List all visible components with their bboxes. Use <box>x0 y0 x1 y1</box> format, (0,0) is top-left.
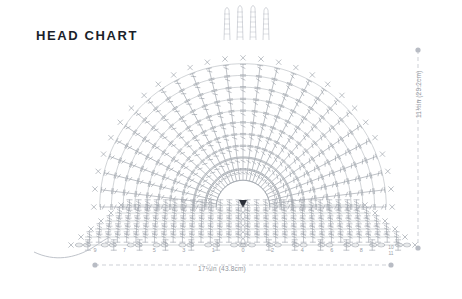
svg-text:3: 3 <box>182 247 185 253</box>
svg-text:8: 8 <box>360 247 363 253</box>
dimension-height-label: 11½in (29.2cm) <box>415 71 422 118</box>
svg-text:6: 6 <box>330 247 333 253</box>
crochet-chart-diagram: 97531024681011 <box>0 0 462 299</box>
svg-text:4: 4 <box>301 247 304 253</box>
svg-text:7: 7 <box>123 247 126 253</box>
svg-text:1: 1 <box>212 247 215 253</box>
center-chain-column <box>241 206 245 245</box>
dimension-width-label: 17¼in (43.8cm) <box>198 265 246 272</box>
svg-text:2: 2 <box>271 247 274 253</box>
yarn-tail <box>34 238 108 258</box>
svg-text:0: 0 <box>241 247 244 253</box>
svg-text:10: 10 <box>388 245 394 250</box>
fringe-strands <box>224 6 269 41</box>
head-chart-page: HEAD CHART <box>0 0 462 299</box>
svg-text:5: 5 <box>153 247 156 253</box>
svg-text:11: 11 <box>389 251 394 256</box>
svg-text:9: 9 <box>93 247 96 253</box>
